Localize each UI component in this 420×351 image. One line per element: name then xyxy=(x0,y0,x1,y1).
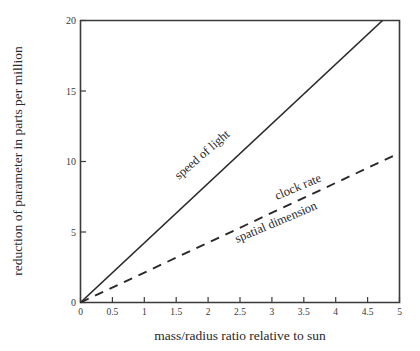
series-label-speed-of-light: speed of light xyxy=(172,127,233,183)
y-axis-tick-labels: 0 5 10 15 20 xyxy=(66,15,76,308)
x-axis-tick-labels: 0 0.5 1 1.5 2 2.5 3 3.5 4 4.5 5 xyxy=(78,307,402,317)
x-tick-label-3-5: 3.5 xyxy=(298,307,310,317)
chart-figure: 0 5 10 15 20 0 0.5 1 1.5 2 2.5 xyxy=(0,0,420,351)
plot-frame xyxy=(81,21,400,303)
line-chart: 0 5 10 15 20 0 0.5 1 1.5 2 2.5 xyxy=(0,0,420,351)
series-speed-of-light xyxy=(81,21,383,303)
y-axis-ticks xyxy=(81,21,87,303)
x-tick-label-3: 3 xyxy=(270,307,275,317)
y-tick-label-15: 15 xyxy=(66,86,76,97)
series-label-clock-rate: clock rate xyxy=(273,171,324,203)
x-tick-label-4-5: 4.5 xyxy=(362,307,374,317)
y-tick-label-20: 20 xyxy=(66,15,76,26)
series-clock-rate-spatial-dimension xyxy=(81,153,400,303)
plot-axes xyxy=(81,21,400,303)
y-tick-label-5: 5 xyxy=(71,227,76,238)
x-axis-ticks xyxy=(81,297,400,303)
series-label-spatial-dimension: spatial dimension xyxy=(233,198,320,246)
x-tick-label-2: 2 xyxy=(206,307,211,317)
x-tick-label-0: 0 xyxy=(78,307,83,317)
x-tick-label-1-5: 1.5 xyxy=(170,307,182,317)
x-tick-label-0-5: 0.5 xyxy=(106,307,118,317)
x-tick-label-1: 1 xyxy=(142,307,147,317)
y-axis-title: reduction of parameter in parts per mill… xyxy=(10,46,25,276)
y-tick-label-0: 0 xyxy=(71,297,76,308)
x-tick-label-5: 5 xyxy=(397,307,402,317)
x-axis-title: mass/radius ratio relative to sun xyxy=(154,328,326,343)
y-tick-label-10: 10 xyxy=(66,156,76,167)
x-tick-label-2-5: 2.5 xyxy=(234,307,246,317)
x-tick-label-4: 4 xyxy=(333,307,338,317)
